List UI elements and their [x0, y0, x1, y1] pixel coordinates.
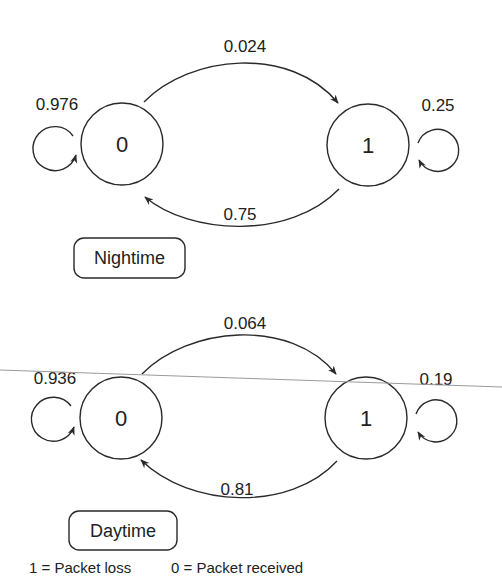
label-box-text: Nightime [94, 248, 165, 268]
state-label: 1 [362, 133, 374, 158]
arrow-0-to-1 [142, 335, 336, 374]
self-loop-1 [416, 400, 457, 442]
label-box-text: Daytime [90, 521, 156, 541]
night-state-1: 1 [327, 104, 409, 186]
transition-label-p11: 0.25 [421, 96, 454, 115]
transition-label-p01: 0.024 [224, 37, 267, 56]
self-loop-0 [33, 127, 76, 171]
state-label: 0 [115, 406, 127, 431]
day-state-1: 1 [325, 377, 407, 459]
nighttime-label-box: Nightime [74, 238, 185, 278]
transition-label-p01: 0.064 [224, 314, 267, 333]
daytime-label-box: Daytime [69, 511, 177, 550]
state-label: 1 [360, 406, 372, 431]
night-state-0: 0 [81, 103, 163, 185]
arrow-0-to-1 [144, 63, 338, 103]
transition-label-p11: 0.19 [419, 370, 452, 389]
legend-packet-loss: 1 = Packet loss [29, 559, 131, 576]
transition-label-p10: 0.75 [223, 205, 256, 224]
self-loop-1 [418, 129, 459, 171]
legend-packet-received: 0 = Packet received [171, 559, 303, 576]
transition-label-p00: 0.976 [36, 95, 79, 114]
transition-label-p10: 0.81 [220, 480, 253, 499]
markov-chain-figure: 0 1 0.024 0.75 0.976 0.25 Nightime 0 [0, 0, 502, 577]
daytime-diagram: 0 1 0.064 0.81 0.936 0.19 Daytime [31, 314, 456, 550]
day-state-0: 0 [80, 377, 162, 459]
legend: 1 = Packet loss 0 = Packet received [29, 559, 303, 576]
nighttime-diagram: 0 1 0.024 0.75 0.976 0.25 Nightime [33, 37, 459, 278]
self-loop-0 [31, 397, 74, 441]
state-label: 0 [116, 132, 128, 157]
